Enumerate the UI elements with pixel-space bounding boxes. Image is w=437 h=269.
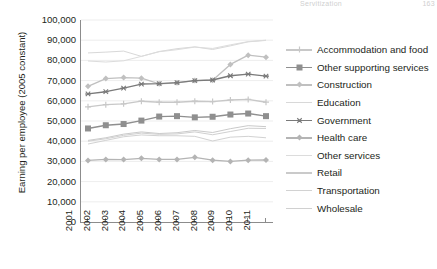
x-tick-label: 2004 bbox=[116, 210, 127, 250]
legend-marker-diamond-icon bbox=[296, 134, 303, 141]
data-point-marker bbox=[210, 99, 216, 105]
legend-marker-plus-icon bbox=[296, 46, 303, 53]
data-point-marker bbox=[85, 92, 91, 97]
data-point-marker bbox=[227, 112, 233, 118]
legend-label: Accommodation and food bbox=[317, 44, 428, 55]
series-accommodation-and-food bbox=[85, 96, 269, 109]
legend-label: Retail bbox=[317, 167, 342, 178]
legend-item-education[interactable]: Education bbox=[286, 94, 437, 112]
y-tick-label: 50,000 bbox=[28, 116, 76, 126]
legend-label: Transportation bbox=[317, 185, 380, 196]
data-point-marker bbox=[297, 64, 303, 70]
data-point-marker bbox=[103, 122, 109, 128]
x-tick-label-text: 2002 bbox=[81, 210, 92, 231]
legend-item-retail[interactable]: Retail bbox=[286, 164, 437, 182]
legend-swatch-icon bbox=[286, 166, 312, 180]
legend-swatch-icon bbox=[286, 60, 312, 74]
legend-line bbox=[286, 208, 312, 209]
y-tick-label: 80,000 bbox=[28, 55, 76, 65]
x-tick-label: 2011 bbox=[241, 210, 252, 250]
x-tick-label: 2005 bbox=[134, 210, 145, 250]
data-point-marker bbox=[156, 114, 162, 120]
y-tick-label: 10,000 bbox=[28, 197, 76, 207]
data-point-marker bbox=[263, 54, 269, 60]
data-point-marker bbox=[263, 99, 269, 105]
data-point-marker bbox=[297, 47, 303, 53]
x-tick-mark bbox=[265, 218, 266, 222]
legend-item-other-supporting-services[interactable]: Other supporting services bbox=[286, 59, 437, 77]
legend-item-construction[interactable]: Construction bbox=[286, 76, 437, 94]
series-other-services bbox=[88, 40, 266, 62]
x-tick-label-text: 2011 bbox=[241, 210, 252, 230]
x-tick-label-text: 2006 bbox=[152, 210, 163, 231]
series-line bbox=[88, 128, 266, 141]
legend-label: Other supporting services bbox=[317, 62, 429, 73]
series-line bbox=[88, 40, 266, 62]
legend-line bbox=[286, 190, 312, 191]
data-point-marker bbox=[245, 72, 251, 77]
y-tick-label: 60,000 bbox=[28, 96, 76, 106]
x-tick-label: 2001 bbox=[63, 210, 74, 250]
data-point-marker bbox=[297, 118, 303, 123]
x-tick-label-text: 2004 bbox=[116, 210, 127, 231]
running-head: Servitization 163 bbox=[300, 0, 437, 10]
data-point-marker bbox=[121, 86, 127, 91]
legend-item-health-care[interactable]: Health care bbox=[286, 129, 437, 147]
y-tick-label: 70,000 bbox=[28, 76, 76, 86]
legend-marker-diamond-icon bbox=[296, 81, 303, 88]
series-construction bbox=[85, 52, 269, 89]
chart-legend: Accommodation and foodOther supporting s… bbox=[286, 41, 437, 217]
data-point-marker bbox=[138, 98, 144, 104]
x-tick-label-text: 2001 bbox=[63, 210, 74, 231]
data-point-marker bbox=[174, 99, 180, 105]
y-tick-label: 20,000 bbox=[28, 177, 76, 187]
x-tick-label: 2007 bbox=[170, 210, 181, 250]
legend-label: Wholesale bbox=[317, 203, 363, 214]
data-point-marker bbox=[192, 154, 198, 160]
legend-item-other-services[interactable]: Other services bbox=[286, 147, 437, 165]
x-tick-label-text: 2005 bbox=[134, 210, 145, 231]
data-point-marker bbox=[138, 118, 144, 124]
legend-item-wholesale[interactable]: Wholesale bbox=[286, 199, 437, 217]
data-point-marker bbox=[85, 83, 91, 89]
legend-swatch-icon bbox=[286, 184, 312, 198]
x-tick-label-text: 2003 bbox=[99, 210, 110, 231]
data-point-marker bbox=[192, 114, 198, 120]
data-point-marker bbox=[263, 113, 269, 119]
x-tick-label: 2002 bbox=[81, 210, 92, 250]
data-point-marker bbox=[245, 96, 251, 102]
y-tick-label: 40,000 bbox=[28, 136, 76, 146]
series-wholesale bbox=[88, 128, 266, 141]
data-point-marker bbox=[227, 74, 233, 79]
legend-line bbox=[286, 172, 312, 173]
legend-swatch-icon bbox=[286, 113, 312, 127]
y-tick-label: 30,000 bbox=[28, 156, 76, 166]
data-point-marker bbox=[85, 104, 91, 110]
legend-marker-star-icon bbox=[296, 117, 303, 124]
legend-item-government[interactable]: Government bbox=[286, 111, 437, 129]
x-tick-label: 2006 bbox=[152, 210, 163, 250]
legend-swatch-icon bbox=[286, 201, 312, 215]
legend-label: Education bbox=[317, 97, 361, 108]
data-point-marker bbox=[121, 101, 127, 107]
series-canvas bbox=[81, 20, 273, 222]
data-point-marker bbox=[210, 114, 216, 120]
legend-swatch-icon bbox=[286, 131, 312, 145]
data-point-marker bbox=[297, 135, 303, 141]
x-tick-label: 2003 bbox=[99, 210, 110, 250]
legend-item-accommodation-and-food[interactable]: Accommodation and food bbox=[286, 41, 437, 59]
x-tick-label-text: 2009 bbox=[205, 210, 216, 231]
data-point-marker bbox=[192, 98, 198, 104]
data-point-marker bbox=[174, 113, 180, 119]
data-point-marker bbox=[103, 102, 109, 108]
legend-swatch-icon bbox=[286, 78, 312, 92]
x-tick-label-text: 2010 bbox=[223, 210, 234, 231]
legend-swatch-icon bbox=[286, 148, 312, 162]
legend-label: Health care bbox=[317, 132, 367, 143]
legend-item-transportation[interactable]: Transportation bbox=[286, 182, 437, 200]
data-point-marker bbox=[227, 97, 233, 103]
data-point-marker bbox=[138, 82, 144, 87]
legend-label: Construction bbox=[317, 79, 372, 90]
running-head-page: 163 bbox=[422, 0, 435, 7]
data-point-marker bbox=[245, 52, 251, 58]
